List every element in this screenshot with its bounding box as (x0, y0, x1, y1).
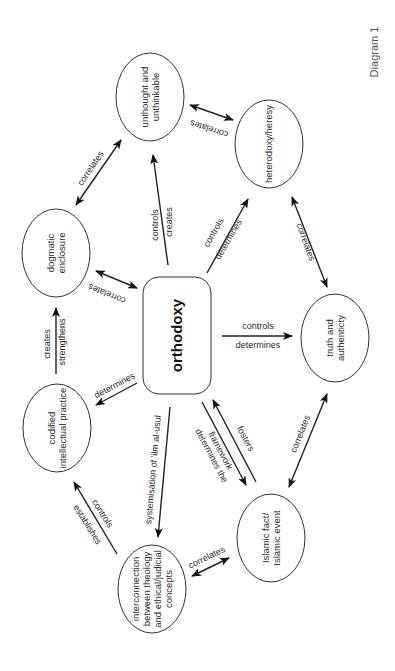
node-interconnection: interconnectionbetween theologyand ethic… (118, 545, 186, 633)
diagram-caption: Diagram 1 (368, 27, 380, 78)
edge-dogmatic-unthought: correlates (75, 140, 121, 205)
edge-label: controls (242, 321, 274, 331)
truth-label: authenticty (335, 315, 346, 361)
edge-label: determines (93, 370, 137, 400)
edge-unthought-heterodoxy: correlates (188, 105, 233, 140)
edge-label: strengthens (57, 318, 67, 366)
interconnection-label: interconnection (130, 557, 141, 621)
node-unthought: unthought andunthinkable (116, 53, 184, 141)
node-codified: codifiedintellectual practice (23, 384, 91, 472)
edge-label: systemisation of 'ilm al-usul (143, 415, 162, 525)
edge-label: correlates (294, 222, 317, 263)
edge-codified-dogmatic: createsstrengthens (42, 308, 67, 374)
edge-label: controls (150, 209, 160, 241)
edge-label: creates (164, 207, 174, 237)
edge-orthodoxy-truth: controlsdetermines (222, 321, 292, 350)
edge-label: correlates (187, 544, 227, 571)
unthought-label: unthinkable (150, 73, 161, 122)
codified-label: codified (46, 412, 57, 445)
edge-interconnection-codified: establishescontrols (71, 482, 117, 554)
core-node-orthodoxy: orthodoxy (143, 277, 211, 394)
node-dogmatic: dogmaticenclosure (22, 209, 90, 297)
interconnection-label: concepts (163, 570, 174, 608)
islamic-label: Islamic fact/ (260, 513, 271, 564)
edge-orthodoxy-islamic: determines theframework (193, 402, 246, 485)
edge-interconnection-islamic: correlates (187, 544, 229, 576)
edge-orthodoxy-codified: determines (93, 370, 137, 405)
edge-truth-islamic: correlates (288, 394, 327, 487)
node-truth: truth andauthenticty (301, 294, 369, 382)
edge-label: correlates (188, 118, 229, 140)
edge-dogmatic-orthodoxy: correlates (86, 271, 137, 306)
interconnection-label: and ethical/judicial (152, 550, 163, 628)
node-islamic: Islamic fact/Islamic event (237, 494, 305, 582)
dogmatic-label: enclosure (56, 232, 67, 273)
edge-orthodoxy-interconnection: systemisation of 'ilm al-usul (143, 407, 170, 537)
codified-label: intellectual practice (57, 388, 68, 469)
dogmatic-label: dogmatic (45, 233, 56, 272)
islamic-label: Islamic event (271, 510, 282, 566)
arrow-icon (190, 105, 233, 120)
edge-orthodoxy-unthought: controlscreates (150, 155, 174, 265)
edge-label: correlates (288, 413, 312, 454)
truth-label: truth and (324, 319, 335, 357)
unthought-label: unthought and (139, 67, 150, 128)
edge-label: correlates (86, 282, 127, 306)
concept-diagram: Diagram 1 correlatescorrelatescontrolscr… (0, 0, 395, 671)
orthodoxy-label: orthodoxy (168, 298, 185, 372)
edge-heterodoxy-truth: correlates (292, 197, 327, 287)
edge-orthodoxy-heterodoxy: controlsdetermines (201, 199, 248, 273)
heterodoxy-label: heterodoxy/heresy (263, 105, 274, 183)
edge-label: creates (42, 329, 52, 359)
interconnection-label: between theology (141, 552, 152, 627)
edge-label: determines (236, 340, 281, 350)
arrow-icon (96, 271, 137, 288)
node-heterodoxy: heterodoxy/heresy (235, 100, 303, 188)
